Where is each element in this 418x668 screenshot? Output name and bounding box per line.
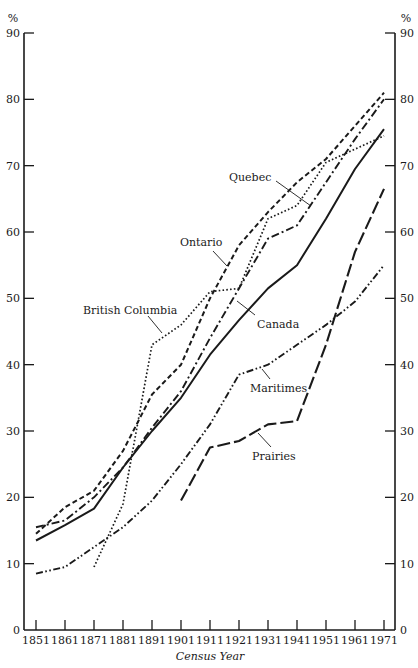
y-tick-label-left: 20 <box>6 491 20 504</box>
x-tick-label: 1941 <box>283 634 311 647</box>
x-tick-label: 1911 <box>196 634 224 647</box>
x-tick-label: 1851 <box>22 634 50 647</box>
series-label-maritimes: Maritimes <box>250 382 307 395</box>
y-tick-label-left: 40 <box>6 359 20 372</box>
x-tick-label: 1871 <box>80 634 108 647</box>
y-tick-label-right: 10 <box>400 558 414 571</box>
x-tick-label: 1891 <box>138 634 166 647</box>
y-tick-label-right: 60 <box>400 226 414 239</box>
y-tick-label-right: 0 <box>400 624 407 637</box>
y-tick-label-left: 0 <box>13 624 20 637</box>
y-tick-label-left: 60 <box>6 226 20 239</box>
y-tick-label-right: 90 <box>400 27 414 40</box>
y-tick-label-left: 70 <box>6 160 20 173</box>
leader-line-ontario <box>213 251 227 266</box>
y-tick-label-right: 40 <box>400 359 414 372</box>
series-labels: QuebecOntarioBritish ColumbiaCanadaMarit… <box>83 171 311 463</box>
leader-line-prairies <box>258 433 271 447</box>
series-lines <box>36 93 384 574</box>
x-tick-label: 1951 <box>312 634 340 647</box>
y-tick-label-right: 80 <box>400 93 414 106</box>
x-tick-label: 1971 <box>370 634 398 647</box>
y-tick-label-right: 30 <box>400 425 414 438</box>
series-label-quebec: Quebec <box>229 171 271 184</box>
series-label-british-columbia: British Columbia <box>83 304 178 317</box>
y-tick-label-left: 80 <box>6 93 20 106</box>
urbanization-line-chart: 00101020203030404050506060707080809090%%… <box>0 0 418 668</box>
y-tick-label-left: 30 <box>6 425 20 438</box>
y-unit-left: % <box>8 12 18 25</box>
leader-line-british-columbia <box>148 316 162 333</box>
leader-line-maritimes <box>262 369 270 379</box>
x-tick-label: 1881 <box>109 634 137 647</box>
y-tick-label-right: 70 <box>400 160 414 173</box>
series-label-ontario: Ontario <box>180 236 223 249</box>
x-tick-label: 1961 <box>341 634 369 647</box>
series-label-prairies: Prairies <box>252 450 296 463</box>
x-axis-title: Census Year <box>176 650 245 663</box>
y-tick-label-right: 50 <box>400 292 414 305</box>
x-tick-label: 1921 <box>225 634 253 647</box>
x-tick-label: 1861 <box>51 634 79 647</box>
series-line-british-columbia <box>94 136 384 567</box>
y-tick-label-left: 10 <box>6 558 20 571</box>
y-tick-label-left: 90 <box>6 27 20 40</box>
y-tick-label-right: 20 <box>400 491 414 504</box>
series-line-canada <box>36 129 384 540</box>
x-tick-label: 1901 <box>167 634 195 647</box>
y-unit-right: % <box>401 12 411 25</box>
series-label-canada: Canada <box>257 318 300 331</box>
y-tick-label-left: 50 <box>6 292 20 305</box>
x-tick-label: 1931 <box>254 634 282 647</box>
